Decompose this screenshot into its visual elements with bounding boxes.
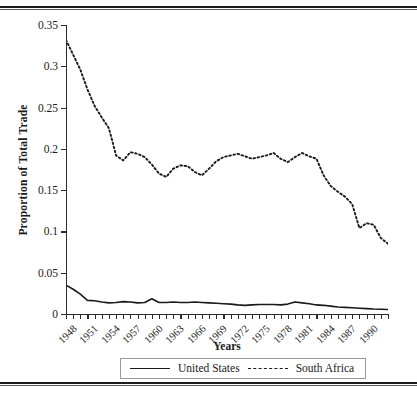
x-tick	[95, 314, 96, 319]
x-tick	[302, 314, 303, 319]
x-tick	[309, 314, 310, 319]
x-tick	[259, 314, 260, 319]
x-tick	[381, 314, 382, 319]
x-tick	[338, 314, 339, 319]
x-tick	[195, 314, 196, 319]
x-tick	[73, 314, 74, 319]
y-tick-label: 0	[52, 308, 58, 320]
y-tick-label: 0.15	[38, 184, 58, 196]
page-rule-top-thin	[0, 9, 417, 10]
x-tick	[138, 314, 139, 319]
y-tick	[61, 25, 66, 26]
y-tick	[61, 190, 66, 191]
legend-label-united-states: United States	[176, 362, 242, 374]
x-tick	[130, 314, 131, 319]
legend-swatch-united-states	[130, 368, 170, 369]
x-tick	[345, 314, 346, 319]
x-tick	[252, 314, 253, 319]
x-tick	[188, 314, 189, 319]
y-tick-label: 0.25	[38, 102, 58, 114]
x-tick	[266, 314, 267, 319]
page-rule-bottom-thin	[0, 385, 417, 386]
x-tick	[80, 314, 81, 319]
x-tick	[216, 314, 217, 319]
x-tick	[109, 314, 110, 319]
x-tick	[388, 314, 389, 319]
x-tick	[152, 314, 153, 319]
y-tick-label: 0.05	[38, 267, 58, 279]
x-tick	[295, 314, 296, 319]
y-tick-label: 0.2	[44, 143, 58, 155]
x-tick	[87, 314, 88, 319]
x-tick	[281, 314, 282, 319]
x-tick	[66, 314, 67, 319]
x-tick	[166, 314, 167, 319]
series-layer	[66, 25, 388, 314]
x-tick	[352, 314, 353, 319]
x-axis-title: Years	[66, 340, 388, 352]
y-tick-label: 0.35	[38, 19, 58, 31]
x-tick	[231, 314, 232, 319]
series-line-south-africa	[66, 40, 388, 244]
legend-label-south-africa: South Africa	[294, 362, 356, 374]
scanned-page: Proportion of Total Trade 00.050.10.150.…	[0, 0, 417, 399]
x-tick	[159, 314, 160, 319]
x-tick	[238, 314, 239, 319]
x-tick	[288, 314, 289, 319]
x-tick	[245, 314, 246, 319]
legend-swatch-south-africa	[248, 368, 288, 369]
x-tick	[102, 314, 103, 319]
page-rule-top	[0, 6, 417, 8]
x-axis-line	[66, 314, 388, 315]
x-tick	[367, 314, 368, 319]
y-axis-title: Proportion of Total Trade	[17, 55, 29, 285]
y-tick-label: 0.1	[44, 225, 58, 237]
x-tick	[374, 314, 375, 319]
x-tick	[173, 314, 174, 319]
y-tick	[61, 108, 66, 109]
x-tick	[223, 314, 224, 319]
x-tick	[180, 314, 181, 319]
chart-legend: United States South Africa	[120, 358, 366, 379]
page-rule-bottom	[0, 382, 417, 384]
x-tick	[145, 314, 146, 319]
y-axis-line	[66, 25, 67, 314]
plot-area: 00.050.10.150.20.250.30.35 1948195119541…	[66, 25, 388, 314]
line-chart: Proportion of Total Trade 00.050.10.150.…	[0, 14, 417, 376]
y-tick	[61, 273, 66, 274]
y-tick-label: 0.3	[44, 60, 58, 72]
x-tick	[202, 314, 203, 319]
series-line-united-states	[66, 285, 388, 309]
x-tick	[331, 314, 332, 319]
x-tick	[274, 314, 275, 319]
y-tick	[61, 231, 66, 232]
x-tick	[209, 314, 210, 319]
y-tick	[61, 66, 66, 67]
x-tick	[359, 314, 360, 319]
x-tick	[116, 314, 117, 319]
x-tick	[324, 314, 325, 319]
y-tick	[61, 149, 66, 150]
x-tick	[316, 314, 317, 319]
x-tick	[123, 314, 124, 319]
